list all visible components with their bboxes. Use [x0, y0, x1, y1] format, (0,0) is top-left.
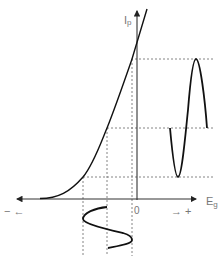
eg-axis-label: Eg: [206, 195, 218, 209]
projection-lines: [83, 59, 213, 256]
transfer-curve: [40, 9, 147, 199]
positive-direction-label: → +: [171, 205, 191, 217]
input-grid-signal: [83, 207, 132, 248]
origin-label: 0: [134, 205, 140, 216]
output-plate-signal: [170, 59, 207, 177]
triode-characteristic-diagram: Ip Eg 0 − ← → +: [0, 0, 219, 256]
ip-axis-label: Ip: [124, 14, 132, 27]
negative-direction-label: − ←: [4, 205, 24, 217]
